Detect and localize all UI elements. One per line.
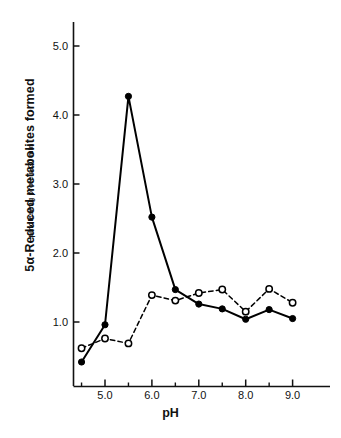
data-point-filled-circle [196, 301, 202, 307]
data-point-open-circle [219, 286, 225, 292]
data-point-open-circle [243, 308, 249, 314]
data-point-open-circle [125, 340, 131, 346]
data-point-filled-circle [266, 306, 272, 312]
x-tick-label: 8.0 [238, 389, 253, 401]
figure-panel: 5α-Reduced metabolites formed pmoles/mg … [0, 0, 341, 438]
data-point-filled-circle [219, 306, 225, 312]
x-axis-label: pH [0, 406, 341, 420]
data-point-open-circle [196, 290, 202, 296]
chart-plot-area: 1.02.03.04.05.0 5.06.07.08.09.0 [0, 0, 341, 438]
series-line-solid-filled-circles [82, 96, 293, 362]
x-tick-label: 9.0 [285, 389, 300, 401]
data-point-filled-circle [102, 322, 108, 328]
series-markers [78, 93, 295, 365]
x-tick-label: 7.0 [191, 389, 206, 401]
data-point-filled-circle [172, 286, 178, 292]
y-tick-label: 5.0 [53, 40, 68, 52]
data-point-open-circle [172, 297, 178, 303]
x-tick-label: 6.0 [144, 389, 159, 401]
y-tick-label: 1.0 [53, 316, 68, 328]
data-point-open-circle [266, 286, 272, 292]
data-point-filled-circle [243, 316, 249, 322]
data-point-filled-circle [125, 93, 131, 99]
data-point-filled-circle [78, 359, 84, 365]
x-axis-ticks: 5.06.07.08.09.0 [82, 380, 301, 402]
y-axis-ticks: 1.02.03.04.05.0 [53, 40, 80, 328]
axis-lines [74, 22, 331, 387]
data-point-open-circle [149, 292, 155, 298]
data-point-open-circle [102, 335, 108, 341]
data-point-filled-circle [290, 315, 296, 321]
y-tick-label: 4.0 [53, 109, 68, 121]
data-point-open-circle [78, 345, 84, 351]
y-tick-label: 3.0 [53, 178, 68, 190]
data-point-open-circle [289, 299, 295, 305]
y-tick-label: 2.0 [53, 247, 68, 259]
x-tick-label: 5.0 [97, 389, 112, 401]
series-lines [82, 96, 293, 362]
data-point-filled-circle [149, 214, 155, 220]
